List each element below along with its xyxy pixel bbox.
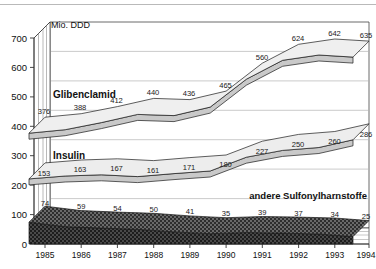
data-label: 286 [360, 130, 373, 139]
data-label: 41 [186, 207, 194, 216]
data-label: 39 [258, 208, 266, 217]
y-tick-300: 300 [11, 150, 27, 161]
data-label: 227 [256, 147, 269, 156]
y-tick-200: 200 [11, 180, 27, 191]
x-tick-1985: 1985 [36, 250, 55, 260]
data-label: 440 [147, 88, 160, 97]
data-label: 59 [77, 202, 85, 211]
series-label-andere-sulfonylharnstoffe: andere Sulfonylharnstoffe [249, 190, 367, 201]
data-label: 560 [256, 53, 269, 62]
chart-plot: 700 600 500 400 300 200 100 0 Mio. DDD [0, 0, 376, 269]
data-label: 171 [183, 163, 196, 172]
data-label: 642 [328, 29, 341, 38]
data-label: 153 [38, 169, 51, 178]
y-tick-100: 100 [11, 209, 27, 220]
data-label: 54 [113, 204, 121, 213]
x-tick-1992: 1992 [289, 250, 308, 260]
x-tick-1986: 1986 [72, 250, 91, 260]
data-label: 388 [74, 103, 87, 112]
data-label: 161 [147, 166, 160, 175]
data-label: 35 [222, 209, 230, 218]
data-label: 34 [331, 210, 339, 219]
data-label: 74 [41, 199, 49, 208]
x-tick-1987: 1987 [108, 250, 127, 260]
y-tick-400: 400 [11, 121, 27, 132]
data-label: 376 [38, 107, 51, 116]
series-label-insulin: Insulin [53, 150, 85, 161]
data-label: 260 [328, 137, 341, 146]
data-label: 180 [219, 160, 232, 169]
data-label: 163 [74, 165, 87, 174]
x-axis: 1985 1986 1987 1988 1989 1990 1991 1992 … [34, 244, 376, 260]
data-label: 412 [110, 96, 123, 105]
data-label: 436 [183, 89, 196, 98]
data-label: 624 [292, 34, 305, 43]
x-tick-1988: 1988 [144, 250, 163, 260]
x-tick-1989: 1989 [180, 250, 199, 260]
x-tick-1991: 1991 [253, 250, 272, 260]
y-tick-600: 600 [11, 62, 27, 73]
y-tick-500: 500 [11, 91, 27, 102]
y-tick-0: 0 [22, 239, 27, 250]
chart-container: 700 600 500 400 300 200 100 0 Mio. DDD [0, 0, 376, 269]
data-label: 250 [292, 140, 305, 149]
x-tick-1990: 1990 [217, 250, 236, 260]
y-axis: 700 600 500 400 300 200 100 0 [11, 33, 34, 250]
data-label: 167 [110, 164, 123, 173]
x-tick-1993: 1993 [325, 250, 344, 260]
y-axis-unit-label: Mio. DDD [51, 20, 91, 30]
y-tick-700: 700 [11, 33, 27, 44]
data-label: 25 [362, 212, 370, 221]
data-label: 37 [294, 209, 302, 218]
data-label: 50 [149, 205, 157, 214]
series-label-glibenclamid: Glibenclamid [53, 89, 116, 100]
data-label: 635 [360, 31, 373, 40]
x-tick-1994: 1994 [357, 250, 376, 260]
data-label: 465 [219, 81, 232, 90]
